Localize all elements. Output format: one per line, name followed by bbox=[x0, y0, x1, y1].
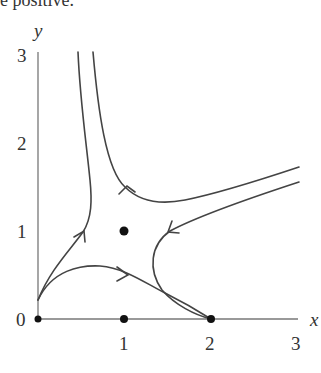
y-tick-0: 0 bbox=[16, 309, 26, 330]
y-tick-1: 1 bbox=[17, 221, 27, 242]
fixed-point-0-0 bbox=[35, 316, 42, 323]
phase-portrait: 0 1 2 3 1 2 3 y x bbox=[0, 0, 321, 373]
x-tick-1: 1 bbox=[119, 333, 129, 354]
x-axis-label: x bbox=[309, 309, 319, 330]
fixed-point-2-0 bbox=[207, 315, 215, 323]
x-tick-3: 3 bbox=[291, 333, 301, 354]
trajectory-top-right bbox=[93, 52, 299, 202]
y-tick-2: 2 bbox=[17, 133, 27, 154]
y-axis-label: y bbox=[32, 20, 43, 41]
fixed-point-1-1 bbox=[120, 227, 129, 236]
trajectory-origin-up bbox=[38, 52, 91, 300]
y-tick-3: 3 bbox=[17, 45, 27, 66]
trajectory-origin-right bbox=[38, 266, 211, 319]
arrow-right-icon bbox=[117, 267, 128, 281]
x-tick-2: 2 bbox=[205, 333, 215, 354]
fixed-point-1-0 bbox=[120, 315, 128, 323]
